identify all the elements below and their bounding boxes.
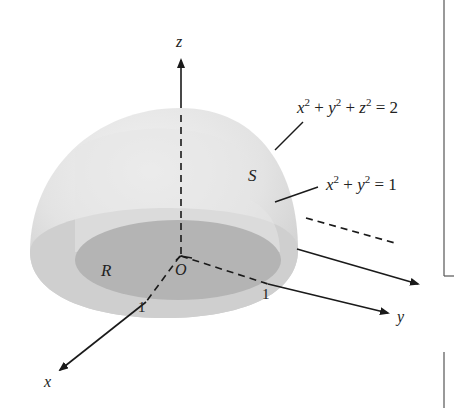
- sphere-equation: x2 + y2 + z2 = 2: [296, 96, 398, 117]
- surface-label-s: S: [248, 166, 257, 185]
- cylinder-equation: x2 + y2 = 1: [325, 173, 397, 194]
- y-axis-label: y: [395, 308, 405, 326]
- y-tick-label: 1: [262, 286, 270, 302]
- hemisphere-diagram: z x y O S R 1 1 x2 + y2 + z2 = 2 x2 + y2…: [0, 0, 454, 408]
- x-axis-label: x: [43, 373, 51, 390]
- origin-label: O: [175, 261, 187, 278]
- projection-lines: [297, 218, 418, 284]
- z-axis-label: z: [175, 33, 183, 50]
- x-tick-label: 1: [138, 299, 146, 315]
- region-label-r: R: [100, 261, 112, 280]
- page-frame: [444, 0, 454, 408]
